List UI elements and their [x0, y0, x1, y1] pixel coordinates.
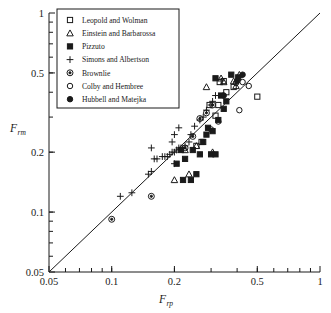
- marker-open-circle: [240, 79, 245, 84]
- x-axis-title-subscript: rp: [166, 299, 173, 308]
- marker-open-triangle: [203, 84, 210, 90]
- marker-circle-dot-center: [184, 147, 186, 149]
- y-tick-label: 0.2: [31, 147, 44, 158]
- marker-circle-dot-center: [192, 135, 194, 137]
- x-tick-label: 0.1: [105, 276, 118, 287]
- marker-open-square: [216, 102, 221, 107]
- y-axis-title-subscript: rm: [18, 128, 27, 137]
- marker-open-square: [255, 94, 260, 99]
- marker-filled-square: [204, 132, 209, 137]
- marker-filled-square: [190, 147, 195, 152]
- marker-filled-square: [188, 177, 193, 182]
- marker-circle-dot-center: [205, 112, 207, 114]
- y-axis-title: Frm: [9, 122, 26, 137]
- marker-open-triangle: [186, 171, 193, 177]
- legend-item-label: Brownlie: [82, 69, 111, 78]
- marker-circle-dot-center: [199, 117, 201, 119]
- legend-item-label: Einstein and Barbarossa: [82, 29, 156, 38]
- x-axis-title: Frp: [158, 293, 173, 308]
- y-tick-label: 0.05: [26, 267, 44, 278]
- marker-open-circle: [246, 83, 251, 88]
- marker-circle-dot-center: [111, 218, 113, 220]
- x-tick-label: 0.5: [251, 276, 264, 287]
- marker-filled-square: [224, 99, 229, 104]
- x-tick-label: 1: [317, 276, 322, 287]
- marker-open-circle: [237, 107, 242, 112]
- marker-filled-square: [197, 152, 202, 157]
- marker-filled-square-legend: [67, 44, 72, 49]
- marker-filled-square: [229, 72, 234, 77]
- x-tick-label: 0.2: [168, 276, 181, 287]
- series-colby-and-hembree: [208, 79, 251, 132]
- marker-filled-square: [213, 152, 218, 157]
- marker-filled-circle-legend: [67, 96, 72, 101]
- y-tick-label: 0.5: [31, 68, 44, 79]
- scatter-chart: 0.050.10.20.510.050.10.20.51 Leopold and…: [0, 0, 331, 313]
- marker-circle-dot-legend-center: [69, 72, 71, 74]
- marker-filled-circle: [240, 72, 245, 77]
- marker-filled-square: [180, 177, 185, 182]
- series-brownlie: [109, 102, 216, 222]
- marker-circle-dot-center: [211, 104, 213, 106]
- y-tick-label: 0.1: [31, 207, 44, 218]
- legend-item-label: Leopold and Wolman: [82, 16, 148, 25]
- legend-item-label: Simons and Albertson: [82, 55, 149, 64]
- marker-filled-circle: [221, 93, 226, 98]
- marker-filled-square: [201, 139, 206, 144]
- marker-filled-circle: [234, 78, 239, 83]
- marker-open-triangle: [171, 177, 178, 183]
- marker-filled-square: [194, 172, 199, 177]
- y-tick-label: 1: [39, 8, 44, 19]
- legend-item-label: Colby and Hembree: [82, 82, 144, 91]
- marker-filled-square: [221, 106, 226, 111]
- legend-item-label: Hubbell and Matejka: [82, 95, 147, 104]
- legend-item-label: Pizzuto: [82, 42, 105, 51]
- legend-group: Leopold and WolmanEinstein and Barbaross…: [57, 9, 179, 108]
- marker-filled-square: [213, 76, 218, 81]
- marker-filled-square: [182, 156, 187, 161]
- marker-circle-dot-center: [150, 195, 152, 197]
- plot-canvas: 0.050.10.20.510.050.10.20.51 Leopold and…: [0, 0, 331, 313]
